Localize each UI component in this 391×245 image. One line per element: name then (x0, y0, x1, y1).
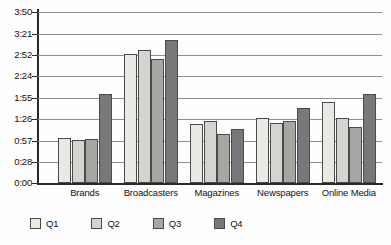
bar (190, 124, 203, 183)
bar-group (58, 12, 112, 183)
bar (58, 138, 71, 183)
bar-group (256, 12, 310, 183)
y-axis-tick-label: 0:28 (0, 157, 32, 166)
bar (138, 50, 151, 183)
y-axis-tick-label: 1:26 (0, 114, 32, 123)
legend-swatch-icon (153, 218, 164, 229)
bar (217, 134, 230, 183)
bar (124, 54, 137, 183)
x-axis-line (37, 183, 383, 185)
y-axis-tick-label: 2:52 (0, 50, 32, 59)
y-axis-tick (32, 12, 37, 13)
legend-swatch-icon (30, 218, 41, 229)
y-axis-tick (32, 183, 37, 184)
bar (204, 121, 217, 183)
bar (151, 59, 164, 183)
bar-group (190, 12, 244, 183)
bar-group (124, 12, 178, 183)
legend-swatch-icon (214, 218, 225, 229)
chart-legend: Q1Q2Q3Q4 (30, 218, 276, 229)
legend-item: Q4 (214, 218, 242, 229)
legend-label: Q4 (230, 218, 242, 229)
y-axis-tick (32, 119, 37, 120)
x-axis-category-label: Online Media (299, 187, 391, 198)
legend-label: Q3 (169, 218, 181, 229)
bar (322, 102, 335, 183)
y-axis-tick (32, 76, 37, 77)
legend-item: Q3 (153, 218, 181, 229)
bar (336, 118, 349, 183)
y-axis-tick-label: 2:24 (0, 71, 32, 80)
y-axis-tick-label: 0:00 (0, 178, 32, 187)
bar (270, 123, 283, 183)
bar (283, 121, 296, 183)
legend-item: Q1 (30, 218, 58, 229)
bar (231, 129, 244, 183)
y-axis-tick-label: 3:21 (0, 29, 32, 38)
plot-area (38, 12, 382, 183)
bar-group (322, 12, 376, 183)
y-axis-tick (32, 98, 37, 99)
y-axis-tick (32, 34, 37, 35)
y-axis-tick-label: 0:57 (0, 136, 32, 145)
bar (363, 94, 376, 183)
bar (72, 140, 85, 183)
legend-label: Q2 (107, 218, 119, 229)
bar (349, 127, 362, 184)
bar (256, 118, 269, 183)
bar-chart: 3:503:212:522:241:551:260:570:280:00 Bra… (0, 0, 391, 245)
legend-swatch-icon (91, 218, 102, 229)
legend-label: Q1 (46, 218, 58, 229)
bar (165, 40, 178, 183)
y-axis-tick-label: 1:55 (0, 93, 32, 102)
y-axis-tick (32, 162, 37, 163)
bar (297, 108, 310, 183)
y-axis-tick (32, 55, 37, 56)
bar (85, 139, 98, 183)
y-axis-tick (32, 141, 37, 142)
y-axis-tick-label: 3:50 (0, 7, 32, 16)
legend-item: Q2 (91, 218, 119, 229)
bar (99, 94, 112, 183)
